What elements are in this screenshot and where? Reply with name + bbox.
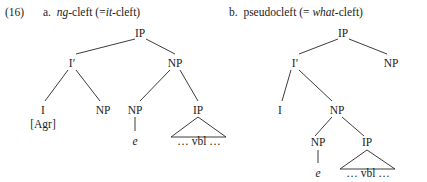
tree-a-node-agr: [Agr] xyxy=(30,118,56,130)
tree-a-branch-ibar-to-i xyxy=(45,70,68,101)
tree-a-branch-np-to-ip xyxy=(180,70,198,101)
figure-container: (16) a. ng-cleft (=it-cleft) b. pseudocl… xyxy=(0,0,427,182)
tree-b-node-empty-category: e xyxy=(315,167,320,179)
tree-b-node-np-complement: NP xyxy=(330,104,345,116)
syntax-tree-lines xyxy=(0,0,427,182)
tree-b-node-i-head: I xyxy=(278,104,282,116)
tree-a-node-root-ip: IP xyxy=(135,27,145,39)
tree-b-node-np-inner: NP xyxy=(311,136,326,148)
tree-b-node-i-bar: I′ xyxy=(292,57,298,69)
tree-a-triangle-ip xyxy=(171,117,226,137)
tree-a-node-i-head: I xyxy=(41,104,45,116)
tree-b-branch-ip-to-ibar xyxy=(299,39,338,54)
tree-b-node-root-ip: IP xyxy=(338,27,348,39)
tree-b-branch-ibar-to-i xyxy=(282,70,291,101)
tree-b-branch-np-to-ip xyxy=(342,117,364,136)
tree-b-branch-ibar-to-np xyxy=(299,70,332,101)
tree-a-node-vbl: … vbl … xyxy=(177,135,220,147)
tree-b-node-ip-inner: IP xyxy=(362,136,372,148)
tree-b-branch-ip-to-np xyxy=(349,39,387,54)
tree-a-node-np-sister-of-i: NP xyxy=(96,104,111,116)
tree-a-node-np-inner: NP xyxy=(128,104,143,116)
tree-b-node-np-right: NP xyxy=(384,57,399,69)
tree-a-node-ip-inner: IP xyxy=(193,104,203,116)
tree-a-branch-ibar-to-np xyxy=(76,70,100,101)
tree-b-node-vbl: … vbl … xyxy=(346,167,389,179)
tree-a-node-i-bar: I′ xyxy=(69,57,75,69)
tree-b-branch-np-to-np xyxy=(315,117,332,136)
tree-a-branch-ip-to-ibar xyxy=(76,39,135,54)
tree-a-branch-np-to-np xyxy=(140,70,170,101)
tree-a-node-empty-category: e xyxy=(132,135,137,147)
tree-a-node-np-right: NP xyxy=(168,57,183,69)
tree-a-branch-ip-to-np xyxy=(146,39,175,54)
